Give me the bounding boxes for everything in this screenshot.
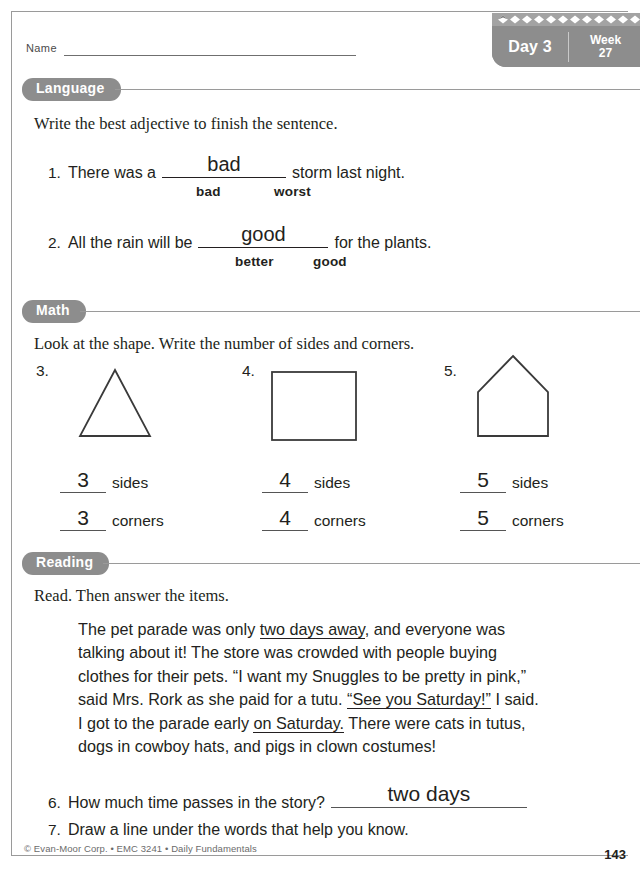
answer-row-corners-5: 5 corners <box>460 508 564 531</box>
answer-row-corners-4: 4 corners <box>262 508 366 531</box>
item-text-after: for the plants. <box>334 234 431 252</box>
passage-text: , and everyone was <box>365 620 505 638</box>
passage-text: dogs in cowboy hats, and pigs in clown c… <box>78 737 436 755</box>
passage-line: talking about it! The store was crowded … <box>78 641 598 664</box>
reading-passage: The pet parade was only two days away, a… <box>78 618 598 758</box>
item-text-after: storm last night. <box>292 164 405 182</box>
answer-label-corners: corners <box>512 512 564 531</box>
day-week-badge: Day 3 Week 27 <box>492 13 640 67</box>
answer-row-sides-3: 3 sides <box>60 470 148 493</box>
footer-page-number: 143 <box>604 847 626 862</box>
section-rule <box>80 311 640 312</box>
choice-option[interactable]: good <box>313 254 347 269</box>
footer-copyright: © Evan-Moor Corp. • EMC 3241 • Daily Fun… <box>24 843 257 854</box>
answer-label-sides: sides <box>512 474 548 493</box>
answer-blank-sides-3[interactable]: 3 <box>60 470 106 493</box>
section-header-language: Language <box>22 78 640 101</box>
answer-blank-6[interactable]: two days <box>331 787 527 808</box>
reading-item-7: 7. Draw a line under the words that help… <box>48 821 409 839</box>
name-field-row[interactable]: Name <box>26 42 356 56</box>
handwritten-answer-corners-5: 5 <box>460 506 506 530</box>
handwritten-answer-6: two days <box>331 782 527 806</box>
answer-blank-corners-4[interactable]: 4 <box>262 508 308 531</box>
answer-blank-1[interactable]: bad <box>162 158 286 178</box>
passage-line: clothes for their pets. “I want my Snugg… <box>78 665 598 688</box>
item-text-before: There was a <box>68 164 156 182</box>
item-number-5: 5. <box>444 362 457 380</box>
passage-line: dogs in cowboy hats, and pigs in clown c… <box>78 735 598 758</box>
passage-line: said Mrs. Rork as she paid for a tutu. “… <box>78 688 598 711</box>
passage-text: talking about it! The store was crowded … <box>78 643 497 661</box>
section-title-language: Language <box>22 78 121 101</box>
reading-item-6: 6. How much time passes in the story? tw… <box>48 787 527 812</box>
passage-text: said Mrs. Rork as she paid for a tutu. <box>78 690 347 708</box>
language-item-1: 1. There was a bad storm last night. <box>48 158 405 182</box>
answer-label-sides: sides <box>112 474 148 493</box>
answer-row-sides-5: 5 sides <box>460 470 548 493</box>
badge-week-label: Week <box>571 34 640 46</box>
badge-week-number: 27 <box>571 47 640 59</box>
item-number: 6. <box>48 794 61 812</box>
passage-text: I got to the parade early <box>78 714 253 732</box>
handwritten-answer-sides-4: 4 <box>262 468 308 492</box>
section-rule <box>115 89 640 90</box>
handwritten-answer-corners-3: 3 <box>60 506 106 530</box>
item-number-4: 4. <box>242 362 255 380</box>
choices-item-1: bad worst <box>196 184 311 199</box>
direction-math: Look at the shape. Write the number of s… <box>34 334 414 354</box>
section-title-math: Math <box>22 300 86 323</box>
handwritten-answer-sides-5: 5 <box>460 468 506 492</box>
item-question: Draw a line under the words that help yo… <box>68 821 409 839</box>
choice-option[interactable]: worst <box>274 184 311 199</box>
handwritten-answer-2: good <box>198 223 328 246</box>
passage-line: The pet parade was only two days away, a… <box>78 618 598 641</box>
triangle-shape <box>76 366 154 440</box>
name-label: Name <box>26 42 57 56</box>
pentagon-house-shape <box>472 352 554 440</box>
item-number: 1. <box>48 164 61 182</box>
underlined-phrase: “See you Saturday!” <box>347 690 491 709</box>
handwritten-answer-sides-3: 3 <box>60 468 106 492</box>
answer-label-corners: corners <box>112 512 164 531</box>
section-header-reading: Reading <box>22 552 640 575</box>
passage-text: I said. <box>491 690 539 708</box>
underlined-phrase: two days away <box>260 620 365 639</box>
answer-row-sides-4: 4 sides <box>262 470 350 493</box>
handwritten-answer-corners-4: 4 <box>262 506 308 530</box>
section-title-reading: Reading <box>22 552 109 575</box>
answer-label-corners: corners <box>314 512 366 531</box>
section-header-math: Math <box>22 300 640 323</box>
answer-label-sides: sides <box>314 474 350 493</box>
handwritten-answer-1: bad <box>162 153 286 176</box>
answer-blank-corners-3[interactable]: 3 <box>60 508 106 531</box>
answer-row-corners-3: 3 corners <box>60 508 164 531</box>
item-number-3: 3. <box>36 362 49 380</box>
square-shape <box>270 370 360 444</box>
underlined-phrase: on Saturday. <box>253 714 344 733</box>
passage-text: The pet parade was only <box>78 620 260 638</box>
direction-language: Write the best adjective to finish the s… <box>34 114 338 134</box>
section-rule <box>103 563 640 564</box>
answer-blank-2[interactable]: good <box>198 228 328 248</box>
direction-reading: Read. Then answer the items. <box>34 586 229 606</box>
name-input-line[interactable] <box>64 45 356 56</box>
item-number: 2. <box>48 234 61 252</box>
item-text-before: All the rain will be <box>68 234 193 252</box>
item-number: 7. <box>48 821 61 839</box>
badge-week: Week 27 <box>569 34 640 58</box>
answer-blank-corners-5[interactable]: 5 <box>460 508 506 531</box>
answer-blank-sides-5[interactable]: 5 <box>460 470 506 493</box>
badge-day-label: Day 3 <box>492 38 568 56</box>
passage-text: There were cats in tutus, <box>344 714 525 732</box>
answer-blank-sides-4[interactable]: 4 <box>262 470 308 493</box>
choice-option[interactable]: bad <box>196 184 274 199</box>
passage-text: clothes for their pets. “I want my Snugg… <box>78 667 526 685</box>
choice-option[interactable]: better <box>235 254 313 269</box>
item-question: How much time passes in the story? <box>68 794 325 812</box>
language-item-2: 2. All the rain will be good for the pla… <box>48 228 431 252</box>
choices-item-2: better good <box>235 254 347 269</box>
diamond-pattern-icon <box>492 13 640 26</box>
passage-line: I got to the parade early on Saturday. T… <box>78 712 598 735</box>
